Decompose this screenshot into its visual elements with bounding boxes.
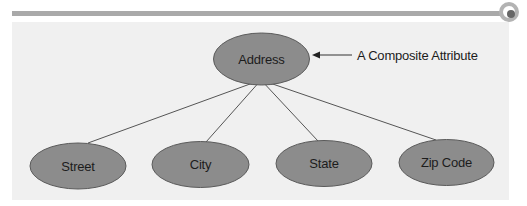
node-street: Street xyxy=(30,143,126,189)
edge-address-city xyxy=(206,80,261,142)
node-street-label: Street xyxy=(61,159,95,174)
edges xyxy=(88,80,436,143)
node-zip-code-label: Zip Code xyxy=(421,155,472,170)
node-state: State xyxy=(276,141,372,187)
arrowhead-left-icon xyxy=(312,52,320,59)
node-zip-code: Zip Code xyxy=(399,140,494,186)
node-state-label: State xyxy=(309,156,338,171)
node-city-label: City xyxy=(190,157,212,172)
edge-address-street xyxy=(88,80,261,143)
edge-address-state xyxy=(261,80,318,141)
node-city: City xyxy=(152,142,249,188)
composite-attribute-diagram: Address A Composite Attribute Street Cit… xyxy=(0,0,527,206)
annotation: A Composite Attribute xyxy=(312,48,478,63)
node-address: Address xyxy=(214,33,310,85)
edge-address-zip-code xyxy=(261,80,436,140)
node-address-label: Address xyxy=(238,52,285,67)
annotation-label: A Composite Attribute xyxy=(357,48,478,63)
